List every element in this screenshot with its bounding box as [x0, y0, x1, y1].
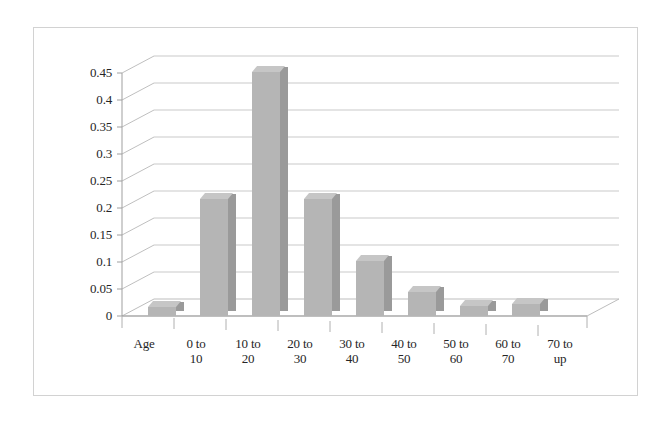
ytick-label-7: 0.1: [56, 254, 112, 270]
category-label-50-to-60: 50 to 60: [428, 336, 484, 366]
bar-30-to-40[interactable]: [304, 188, 340, 316]
gridline-0.4: [122, 83, 154, 100]
ytick-label-2: 0.35: [56, 119, 112, 135]
bar-10-to-20[interactable]: [200, 188, 236, 316]
bar-front-face: [252, 72, 280, 316]
bar-side-face: [436, 287, 444, 311]
category-label-70-to-up: 70 to up: [532, 336, 588, 366]
chart-frame: 0.45 0.4 0.35 0.3 0.25 0.2 0.15 0.1 0.05…: [33, 27, 638, 396]
gridline-0.35: [122, 110, 154, 127]
ytick-label-3: 0.3: [56, 146, 112, 162]
bar-front-face: [200, 199, 228, 316]
category-label-30-to-40: 30 to 40: [324, 336, 380, 366]
gridline-0.25: [122, 164, 154, 181]
bar-top-face: [356, 255, 389, 261]
gridline-0.15: [122, 218, 154, 235]
gridline-0.05: [122, 272, 154, 289]
bar-front-face: [460, 306, 488, 316]
ytick-label-6: 0.15: [56, 227, 112, 243]
category-axis-ticks: [122, 316, 587, 336]
bar-40-to-50[interactable]: [356, 250, 392, 316]
value-axis-ticks: [117, 73, 122, 316]
ytick-label-1: 0.4: [56, 92, 112, 108]
bar-top-face: [200, 193, 233, 199]
bar-side-face: [280, 67, 288, 311]
category-label-0-to-10: 0 to 10: [168, 336, 224, 366]
ytick-label-5: 0.2: [56, 200, 112, 216]
bar-top-face: [148, 301, 181, 307]
bar-top-face: [512, 298, 545, 304]
bar-70-to-up[interactable]: [512, 293, 548, 316]
category-label-60-to-70: 60 to 70: [480, 336, 536, 366]
category-label-10-to-20: 10 to 20: [220, 336, 276, 366]
bar-side-face: [332, 194, 340, 311]
bar-50-to-60[interactable]: [408, 281, 444, 316]
ytick-label-9: 0: [56, 308, 112, 324]
bar-top-face: [304, 193, 337, 199]
chart-plot-area: 0.45 0.4 0.35 0.3 0.25 0.2 0.15 0.1 0.05…: [34, 28, 639, 397]
bar-side-face: [228, 194, 236, 311]
gridline-0.1: [122, 245, 154, 262]
gridline-0.2: [122, 191, 154, 208]
bar-side-face: [384, 256, 392, 311]
category-label-40-to-50: 40 to 50: [376, 336, 432, 366]
ytick-label-4: 0.25: [56, 173, 112, 189]
bar-top-face: [460, 300, 493, 306]
bar-0-to-10[interactable]: [148, 296, 184, 316]
bar-60-to-70[interactable]: [460, 295, 496, 316]
bar-front-face: [512, 304, 540, 316]
gridline-0.3: [122, 137, 154, 154]
gridline-0.45: [122, 56, 154, 73]
bar-front-face: [356, 261, 384, 316]
ytick-label-8: 0.05: [56, 281, 112, 297]
bar-top-face: [252, 66, 285, 72]
bar-front-face: [148, 307, 176, 316]
ytick-label-0: 0.45: [56, 65, 112, 81]
category-label-age: Age: [116, 336, 172, 351]
bar-front-face: [304, 199, 332, 316]
bar-top-face: [408, 286, 441, 292]
bar-20-to-30[interactable]: [252, 61, 288, 316]
bar-front-face: [408, 292, 436, 316]
category-label-20-to-30: 20 to 30: [272, 336, 328, 366]
